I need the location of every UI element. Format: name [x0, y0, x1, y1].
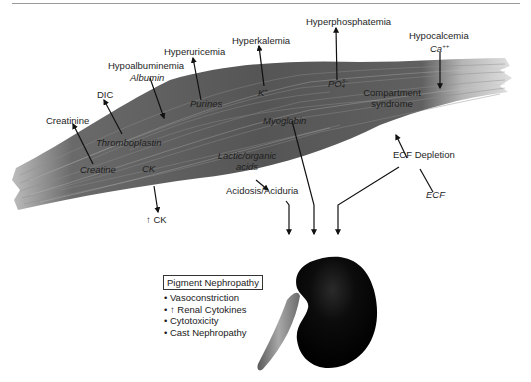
label-ck: CK: [142, 163, 155, 174]
kidney-illustration: [257, 257, 377, 371]
ca-charge: ++: [442, 43, 449, 49]
pigment-nephropathy-title: Pigment Nephropathy: [163, 275, 263, 290]
pigment-nephropathy-list: Vasoconstriction ↑ Renal Cytokines Cytot…: [164, 292, 247, 338]
label-hypocalcemia: Hypocalcemia: [409, 30, 469, 41]
list-item: ↑ Renal Cytokines: [164, 304, 247, 316]
po4-symbol: PO: [328, 78, 342, 89]
arrow-ecf-depletion-to-kidney: [338, 167, 399, 234]
compartment-line-1: Compartment: [363, 87, 421, 98]
arrow-acidosis-to-kidney: [286, 201, 289, 234]
label-acidosis-aciduria: Acidosis/Aciduria: [226, 185, 298, 196]
label-hyperuricemia: Hyperuricemia: [164, 46, 225, 57]
compartment-line-2: syndrome: [363, 98, 421, 109]
k-charge: +: [264, 87, 268, 93]
label-dic: DIC: [97, 89, 113, 100]
label-albumin: Albumin: [130, 72, 164, 83]
label-creatinine: Creatinine: [46, 115, 89, 126]
lactic-line-2: acids: [218, 161, 277, 172]
label-myoglobin: Myoglobin: [263, 115, 306, 126]
ca-symbol: Ca: [430, 43, 442, 54]
label-po4: PO3−4: [328, 78, 348, 90]
lactic-line-1: Lactic/organic: [218, 150, 277, 161]
list-item: Cytotoxicity: [164, 315, 247, 327]
label-hyperphosphatemia: Hyperphosphatemia: [306, 16, 391, 27]
label-ck-rise: ↑ CK: [146, 214, 167, 225]
label-ca: Ca++: [430, 41, 449, 54]
label-creatine: Creatine: [80, 164, 116, 175]
label-hyperkalemia: Hyperkalemia: [232, 35, 290, 46]
arrow-ck-to-ck-rise: [154, 186, 158, 212]
po4-subscript: 4: [342, 84, 348, 90]
label-ecf: ECF: [426, 189, 445, 200]
list-item: Vasoconstriction: [164, 292, 247, 304]
label-ecf-depletion: ECF Depletion: [393, 149, 455, 160]
label-hypoalbuminemia: Hypoalbuminemia: [108, 60, 184, 71]
list-item: Cast Nephropathy: [164, 327, 247, 339]
label-lactic-organic-acids: Lactic/organicacids: [218, 150, 277, 172]
label-purines: Purines: [190, 98, 222, 109]
label-compartment-syndrome: Compartmentsyndrome: [363, 87, 421, 109]
label-thromboplastin: Thromboplastin: [96, 137, 161, 148]
label-k: K+: [258, 85, 268, 98]
